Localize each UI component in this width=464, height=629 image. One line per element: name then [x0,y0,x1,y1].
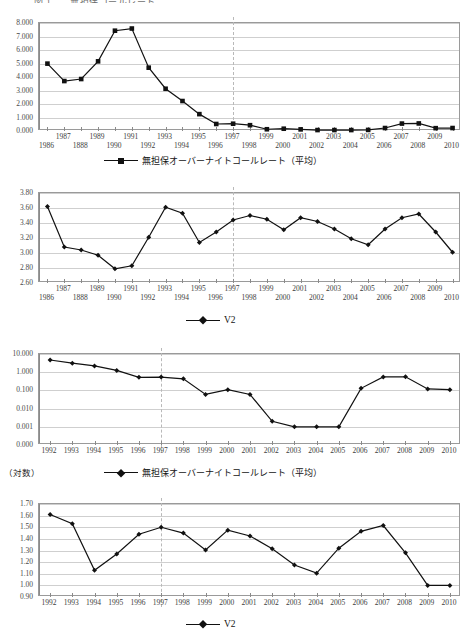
y-axis-tick-label: 1.30 [0,545,33,554]
x-axis-label: 2005 [330,446,345,455]
y-axis-tick-label: 0.90 [0,592,33,601]
series-layer [39,504,461,597]
data-point-diamond [48,512,53,517]
x-axis-label: 2004 [343,141,358,150]
y-axis-tick-label: 0.010 [0,403,33,412]
data-point-diamond [79,248,84,253]
data-point-square [265,127,270,132]
x-axis-label: 1888 [73,293,88,302]
x-axis-label: 2004 [308,446,323,455]
x-axis-label: 2007 [375,598,390,607]
y-axis-tick-label: 3.20 [0,233,33,242]
x-axis-label: 2002 [264,446,279,455]
x-axis-label: 2000 [275,141,290,150]
x-axis-label: 2002 [309,141,324,150]
legend-label: 無担保オーバーナイトコールレート（平均） [142,154,322,167]
x-axis-label: 1989 [90,132,105,141]
x-axis-label: 2001 [242,446,257,455]
data-point-diamond [225,387,230,392]
data-point-square [433,126,438,131]
x-axis-label: 2003 [286,598,301,607]
data-point-square [281,126,286,131]
x-axis-label: 2000 [219,598,234,607]
series-line [47,29,452,131]
data-point-diamond [349,236,354,241]
x-axis-label: 1990 [106,293,121,302]
data-point-diamond [163,205,168,210]
data-point-square [113,28,118,33]
x-axis-label: 1995 [191,284,206,293]
x-axis-label: 2002 [264,598,279,607]
data-point-square [79,77,84,82]
legend-marker-diamond [104,468,138,477]
x-axis-label: 2006 [377,141,392,150]
x-axis-label: 1992 [140,141,155,150]
chart-call-rate-linear: 0.0001.0002.0003.0004.0005.0006.0007.000… [0,16,464,152]
data-point-diamond [92,363,97,368]
data-point-diamond [447,387,452,392]
log-scale-note: （対数） [4,466,40,478]
x-axis-label: 2005 [330,598,345,607]
data-point-diamond [248,533,253,538]
x-axis-label: 2001 [292,132,307,141]
x-axis-label: 2010 [444,141,459,150]
y-axis-tick-label: 3.40 [0,218,33,227]
x-axis-label: 2004 [308,598,323,607]
y-axis-tick-label: 0.000 [0,126,33,135]
data-point-square [298,127,303,132]
chart1-legend: 無担保オーバーナイトコールレート（平均） [104,154,322,167]
y-axis-tick-label: 3.00 [0,248,33,257]
x-axis-label: 1987 [56,284,71,293]
y-axis-tick-label: 0.000 [0,440,33,449]
x-axis-label: 2010 [444,293,459,302]
legend-marker-square [104,156,138,165]
y-axis-tick-label: 2.80 [0,263,33,272]
data-point-diamond [336,424,341,429]
y-axis-tick-label: 1.70 [0,499,33,508]
x-axis-label: 1998 [242,293,257,302]
x-axis-label: 2002 [309,293,324,302]
figure-caption: 図 1 無担保コールレート [34,0,156,3]
x-axis-label: 2009 [427,284,442,293]
data-point-square [214,122,219,127]
plot-area [38,353,460,444]
plot-area [38,503,460,596]
data-point-square [45,61,50,66]
data-point-diamond [70,521,75,526]
x-axis-label: 1992 [42,446,57,455]
x-axis-label: 1996 [208,293,223,302]
y-axis-tick-label: 7.000 [0,31,33,40]
y-axis-tick-label: 1.20 [0,557,33,566]
x-axis-label: 1992 [140,293,155,302]
data-point-diamond [292,424,297,429]
x-axis-label: 2003 [326,284,341,293]
x-axis-label: 2003 [326,132,341,141]
data-point-diamond [62,245,67,250]
data-point-square [349,128,354,133]
y-axis-tick-label: 3.60 [0,203,33,212]
x-axis-label: 1994 [86,598,101,607]
x-axis-label: 1986 [39,141,54,150]
x-axis-label: 2006 [353,598,368,607]
y-axis-tick-label: 2.60 [0,278,33,287]
data-point-diamond [381,374,386,379]
x-axis-label: 2005 [360,132,375,141]
x-axis-label: 2009 [419,446,434,455]
x-axis-label: 1998 [175,598,190,607]
data-point-square [231,121,236,126]
data-point-square [400,121,405,126]
plot-area [38,22,460,130]
x-axis-label: 1992 [42,598,57,607]
x-axis-label: 1997 [225,132,240,141]
x-axis-label: 2001 [242,598,257,607]
data-point-square [62,79,67,84]
data-point-diamond [425,386,430,391]
y-axis-tick-label: 4.000 [0,72,33,81]
x-axis-label: 2009 [419,598,434,607]
legend-label: 無担保オーバーナイトコールレート（平均） [142,466,322,479]
x-axis-label: 1996 [130,446,145,455]
data-point-diamond [45,204,50,209]
x-axis-label: 1993 [64,446,79,455]
x-axis-label: 1999 [258,284,273,293]
data-point-diamond [180,211,185,216]
